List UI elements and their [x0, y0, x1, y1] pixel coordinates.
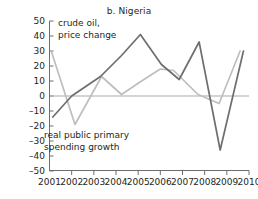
x-axis-tick-label: 2003: [82, 177, 105, 187]
x-axis-tick-label: 2002: [60, 177, 83, 187]
x-axis-tick-label: 2001: [38, 177, 61, 187]
crude-oil-label: crude oil,price change: [58, 18, 117, 40]
y-axis-tick-label: –40: [29, 151, 45, 161]
line-chart-plot: 50403020100–10–20–30–40–50 2001200220032…: [0, 0, 258, 199]
y-axis-tick-label: 50: [34, 16, 46, 26]
chart-figure: b. Nigeria 50403020100–10–20–30–40–50 20…: [0, 0, 258, 199]
y-axis-tick-label: –20: [29, 121, 45, 131]
y-axis-tick-label: 0: [39, 91, 45, 101]
x-axis-tick-label: 2007: [171, 177, 194, 187]
y-axis-tick-label: 10: [34, 76, 46, 86]
x-axis-tick-marks: [72, 171, 249, 176]
x-axis-tick-labels: 2001200220032004200520062007200820092010: [38, 177, 258, 187]
x-axis-tick-label: 2004: [105, 177, 128, 187]
y-axis-tick-label: –10: [29, 106, 45, 116]
x-axis-tick-label: 2006: [149, 177, 172, 187]
spending-growth-label: real public primaryspending growth: [44, 130, 130, 152]
y-axis-tick-label: 30: [34, 46, 46, 56]
x-axis-tick-label: 2008: [193, 177, 216, 187]
y-axis-tick-labels: 50403020100–10–20–30–40–50: [29, 16, 45, 176]
y-axis-tick-label: 20: [34, 61, 46, 71]
y-axis-tick-label: –30: [29, 136, 45, 146]
y-axis-tick-label: –50: [29, 166, 45, 176]
x-axis-tick-label: 2005: [127, 177, 150, 187]
series-line-spending-growth: [52, 51, 240, 125]
x-axis-tick-label: 2009: [215, 177, 238, 187]
x-axis-tick-label: 2010: [238, 177, 258, 187]
y-axis-tick-label: 40: [34, 31, 46, 41]
